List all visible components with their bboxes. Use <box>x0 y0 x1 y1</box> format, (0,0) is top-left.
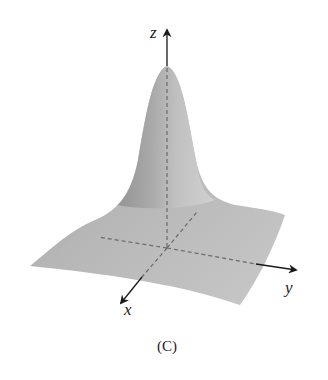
surface-peak-shading <box>118 66 215 208</box>
y-axis-label: y <box>283 278 293 297</box>
surface <box>30 66 285 305</box>
surface-plot: z y x (C) <box>0 0 328 380</box>
z-axis-label: z <box>149 23 157 42</box>
x-axis-label: x <box>123 300 132 319</box>
figure-caption: (C) <box>157 338 177 355</box>
